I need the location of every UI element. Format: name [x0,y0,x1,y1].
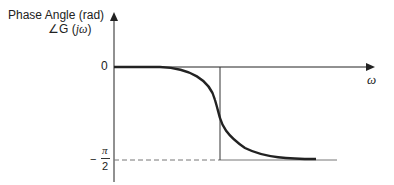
tick-two: 2 [102,160,108,172]
x-axis-arrow [366,63,375,71]
phase-curve [114,67,316,159]
tick-zero: 0 [101,59,108,73]
y-axis-sublabel: ∠G (jω) [48,22,91,37]
x-axis-label: ω [367,72,376,88]
y-axis-label: Phase Angle (rad) [8,8,104,22]
y-axis-arrow [110,12,118,21]
tick-pi: π [102,144,108,156]
tick-minus: − [90,153,96,165]
fraction-bar [101,158,110,159]
